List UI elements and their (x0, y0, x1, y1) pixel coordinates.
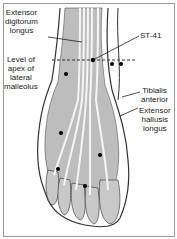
label-extensor-digitorum-longus: Extensor digitorum longus (5, 8, 38, 35)
label-line: ST-41 (140, 31, 161, 40)
label-line: Extensor (139, 106, 171, 115)
label-level-lateral-malleolus: Level of apex of lateral malleolus (4, 55, 38, 91)
label-line: lateral (4, 73, 38, 82)
label-line: anterior (141, 95, 168, 104)
label-line: apex of (4, 64, 38, 73)
label-tibialis-anterior: Tibialis anterior (141, 86, 168, 104)
label-line: malleolus (4, 82, 38, 91)
label-line: digitorum (5, 17, 38, 26)
tibialis-line-icon (118, 8, 120, 100)
label-line: Tibialis (141, 86, 168, 95)
label-line: hallusis (139, 115, 171, 124)
label-line: Level of (4, 55, 38, 64)
label-line: longus (139, 124, 171, 133)
label-line: longus (5, 26, 38, 35)
label-line: Extensor (5, 8, 38, 17)
label-extensor-hallusis-longus: Extensor hallusis longus (139, 106, 171, 133)
label-st41: ST-41 (140, 31, 161, 40)
